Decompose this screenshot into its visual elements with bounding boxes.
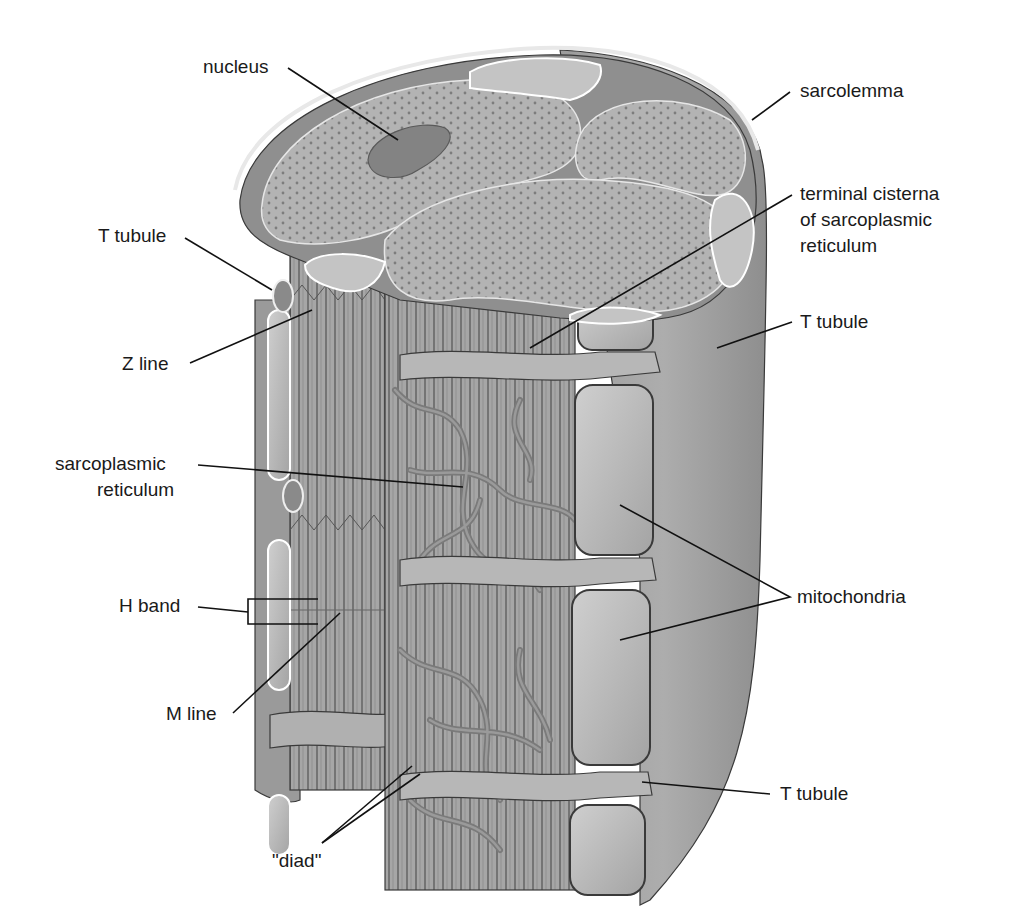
label-mitochondria: mitochondria (797, 586, 906, 607)
label-z-line: Z line (122, 353, 168, 374)
label-nucleus: nucleus (203, 56, 269, 77)
label-terminal-cisterna-line3: reticulum (800, 235, 877, 256)
label-terminal-cisterna-line2: of sarcoplasmic (800, 209, 932, 230)
label-sarcolemma: sarcolemma (800, 80, 904, 101)
label-sarcoplasmic-reticulum-line2: reticulum (97, 479, 174, 500)
label-diad: "diad" (272, 850, 321, 871)
label-terminal-cisterna-line1: terminal cisterna (800, 183, 940, 204)
label-m-line: M line (166, 703, 217, 724)
muscle-fiber-diagram: nucleus sarcolemma T tubule terminal cis… (0, 0, 1015, 917)
label-sarcoplasmic-reticulum-line1: sarcoplasmic (55, 453, 166, 474)
label-t-tubule-top-left: T tubule (98, 225, 166, 246)
left-myofibril-column (255, 230, 400, 855)
label-h-band: H band (119, 595, 180, 616)
label-t-tubule-right-upper: T tubule (800, 311, 868, 332)
label-t-tubule-right-lower: T tubule (780, 783, 848, 804)
